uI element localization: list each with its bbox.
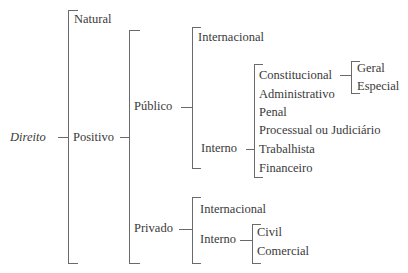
connector-publico bbox=[181, 107, 192, 108]
node-civil: Civil bbox=[257, 225, 282, 239]
law-classification-diagram: Direito Natural Positivo Público Interna… bbox=[0, 0, 408, 273]
bracket-positivo bbox=[129, 30, 130, 264]
node-penal: Penal bbox=[259, 105, 287, 119]
node-comercial: Comercial bbox=[257, 244, 309, 258]
node-privado: Privado bbox=[134, 221, 173, 235]
bracket-direito-bottom bbox=[68, 263, 78, 264]
bracket-publico-top bbox=[192, 27, 201, 28]
node-natural: Natural bbox=[74, 12, 111, 26]
bracket-privado-interno bbox=[252, 224, 253, 264]
node-positivo: Positivo bbox=[73, 130, 114, 144]
connector-direito bbox=[58, 137, 68, 138]
node-publico-internacional: Internacional bbox=[198, 30, 264, 44]
bracket-constitucional bbox=[351, 61, 352, 94]
bracket-publico-interno-top bbox=[254, 64, 263, 65]
bracket-direito-top bbox=[68, 10, 78, 11]
connector-constitucional bbox=[340, 75, 351, 76]
node-geral: Geral bbox=[357, 61, 385, 75]
connector-privado-interno bbox=[240, 240, 252, 241]
node-privado-internacional: Internacional bbox=[200, 202, 266, 216]
node-direito: Direito bbox=[10, 130, 46, 144]
bracket-privado-bottom bbox=[192, 263, 201, 264]
connector-privado bbox=[179, 229, 192, 230]
bracket-privado bbox=[192, 197, 193, 264]
bracket-positivo-top bbox=[129, 30, 140, 31]
node-financeiro: Financeiro bbox=[259, 161, 312, 175]
node-processual: Processual ou Judiciário bbox=[259, 123, 381, 137]
node-administrativo: Administrativo bbox=[259, 87, 335, 101]
node-publico-interno: Interno bbox=[201, 141, 237, 155]
connector-positivo bbox=[120, 137, 129, 138]
bracket-constitucional-bottom bbox=[351, 93, 360, 94]
bracket-direito bbox=[68, 10, 69, 264]
bracket-publico bbox=[192, 27, 193, 169]
bracket-publico-bottom bbox=[192, 168, 201, 169]
bracket-privado-interno-bottom bbox=[252, 263, 261, 264]
bracket-publico-interno bbox=[254, 64, 255, 178]
bracket-privado-top bbox=[192, 197, 201, 198]
node-privado-interno: Interno bbox=[200, 232, 236, 246]
bracket-publico-interno-bottom bbox=[254, 177, 263, 178]
bracket-positivo-bottom bbox=[129, 263, 140, 264]
node-trabalhista: Trabalhista bbox=[259, 142, 315, 156]
node-constitucional: Constitucional bbox=[259, 68, 332, 82]
connector-publico-interno bbox=[246, 149, 254, 150]
node-publico: Público bbox=[134, 99, 172, 113]
node-especial: Especial bbox=[357, 79, 399, 93]
